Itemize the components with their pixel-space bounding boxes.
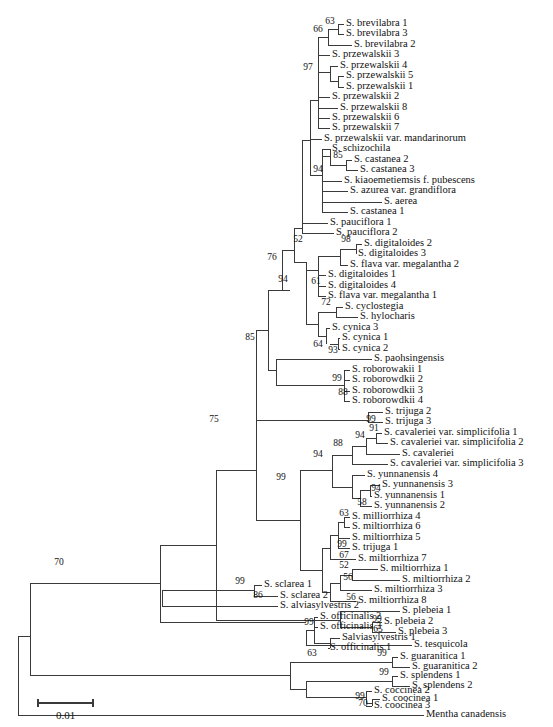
bootstrap-value: 94 xyxy=(278,274,288,284)
bootstrap-value: 99 xyxy=(304,617,314,627)
bootstrap-value: 61 xyxy=(311,276,321,286)
bootstrap-value: 56 xyxy=(343,572,353,582)
bootstrap-value: 64 xyxy=(313,339,323,349)
taxon-label: S. castanea 1 xyxy=(350,205,405,216)
bootstrap-value: 99 xyxy=(332,373,342,383)
taxon-labels: S. brevilabra 1S. brevilabra 3S. brevila… xyxy=(264,17,524,719)
taxon-label: S. roborowdkii 2 xyxy=(352,373,423,384)
taxon-label: S. pauciflora 2 xyxy=(336,226,398,237)
taxon-label: S. cavaleriei var. simplicifolia 3 xyxy=(390,457,524,468)
taxon-label: S. trijuga 1 xyxy=(352,541,398,552)
bootstrap-value: 93 xyxy=(328,345,338,355)
taxon-label: S. trijuga 3 xyxy=(385,415,431,426)
bootstrap-value: 66 xyxy=(313,24,323,34)
bootstrap-value: 86 xyxy=(253,590,263,600)
taxon-label: S. officinalis 3 xyxy=(320,620,381,631)
taxon-label: S. miltiorrhiza 6 xyxy=(352,520,421,531)
bootstrap-value: 91 xyxy=(369,423,379,433)
taxon-label: S. przewalskii 2 xyxy=(332,90,399,101)
bootstrap-value: 52 xyxy=(339,560,349,570)
bootstrap-value: 75 xyxy=(209,414,219,424)
bootstrap-value: 70 xyxy=(54,557,64,567)
taxon-label: S. officinalis 1 xyxy=(330,641,391,652)
taxon-label: S. coocinea 3 xyxy=(374,699,430,710)
taxon-label: S. tesquicola xyxy=(414,638,468,649)
bootstrap-value: 63 xyxy=(307,648,317,658)
taxon-label: S. sclarea 1 xyxy=(264,578,312,589)
tree-canvas: 6366978594529876617264939499888599919488… xyxy=(0,0,553,727)
bootstrap-value: 99 xyxy=(337,539,347,549)
taxon-label: S. schizochila xyxy=(332,142,391,153)
phylogenetic-tree-figure: 6366978594529876617264939499888599919488… xyxy=(0,0,553,727)
bootstrap-value: 99 xyxy=(235,576,245,586)
bootstrap-value: 88 xyxy=(333,438,343,448)
taxon-label: S. hylocharis xyxy=(360,310,415,321)
bootstrap-value: 63 xyxy=(325,16,335,26)
bootstrap-value: 58 xyxy=(357,497,367,507)
taxon-label: S. miltiorrhiza 1 xyxy=(380,562,449,573)
taxon-label: S. castanea 3 xyxy=(360,163,415,174)
taxon-label: S. cavaleriei var. simplicifolia 2 xyxy=(390,436,524,447)
taxon-label: S. flava var. megalantha 1 xyxy=(328,289,437,300)
scale-bar: 0.01 xyxy=(38,699,93,721)
taxon-label: S. digitaloides 1 xyxy=(328,268,396,279)
bootstrap-value: 94 xyxy=(355,430,365,440)
taxon-label: S. miltiorrhiza 3 xyxy=(374,583,443,594)
bootstrap-value: 52 xyxy=(293,234,303,244)
taxon-label: S. digitaloides 3 xyxy=(358,247,426,258)
bootstrap-value: 76 xyxy=(267,252,277,262)
bootstrap-value: 70 xyxy=(358,698,368,708)
taxon-label: S. brevilabra 3 xyxy=(346,27,408,38)
bootstrap-value: 99 xyxy=(276,472,286,482)
taxon-label: S. cynica 1 xyxy=(342,331,388,342)
bootstrap-value: 67 xyxy=(339,550,349,560)
bootstrap-value: 94 xyxy=(313,449,323,459)
bootstrap-value: 88 xyxy=(338,387,348,397)
bootstrap-value: 85 xyxy=(245,332,255,342)
taxon-label: S. yunnanensis 2 xyxy=(374,499,445,510)
bootstrap-value: 97 xyxy=(303,62,313,72)
scale-bar-label: 0.01 xyxy=(56,709,75,721)
taxon-label: S. roborowdkii 4 xyxy=(352,394,424,405)
bootstrap-value: 63 xyxy=(339,508,349,518)
taxon-label: S. yunnanensis 3 xyxy=(382,478,453,489)
bootstrap-value: 94 xyxy=(313,164,323,174)
taxon-label: S. przewalskii 7 xyxy=(332,121,399,132)
taxon-label: Mentha canadensis xyxy=(426,708,506,719)
taxon-label: S. alviasylvestris 2 xyxy=(280,599,359,610)
taxon-label: S. plebeia 1 xyxy=(402,604,451,615)
taxon-label: S. paohsingensis xyxy=(374,352,444,363)
taxon-label: S. azurea var. grandiflora xyxy=(350,184,456,195)
taxon-label: S. przewalskii 5 xyxy=(346,69,413,80)
taxon-label: S. przewalskii 3 xyxy=(332,48,399,59)
bootstrap-value: 99 xyxy=(379,667,389,677)
